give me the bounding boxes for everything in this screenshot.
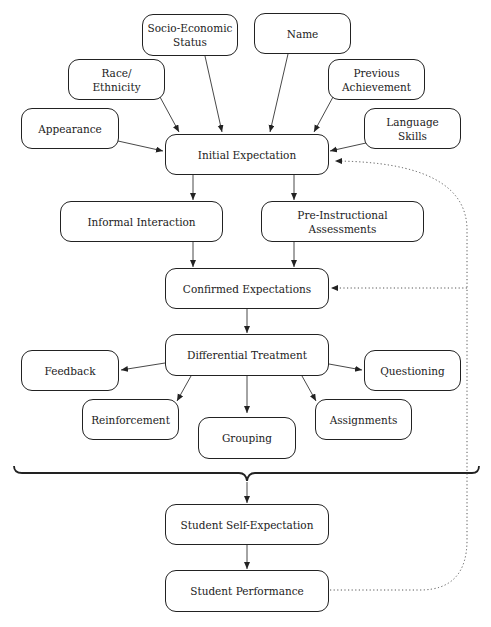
arrow-name-initial: [270, 54, 288, 132]
node-student-self-expectation: Student Self-Expectation: [165, 504, 329, 545]
node-confirmed-expectations: Confirmed Expectations: [165, 268, 329, 309]
arrow-socio-initial: [205, 56, 222, 132]
arrow-race-initial: [160, 97, 179, 132]
node-label: Pre-Instructional Assessments: [265, 208, 420, 236]
node-label: Language Skills: [386, 115, 439, 143]
node-informal-interaction: Informal Interaction: [60, 201, 223, 242]
node-label: Race/ Ethnicity: [92, 66, 140, 94]
node-label: Initial Expectation: [198, 148, 296, 162]
node-label: Name: [287, 27, 319, 41]
node-initial-expectation: Initial Expectation: [165, 134, 329, 175]
node-label: Reinforcement: [91, 413, 170, 427]
node-label: Student Self-Expectation: [181, 518, 314, 532]
arrow-previous-initial: [314, 97, 333, 132]
node-label: Questioning: [380, 364, 444, 378]
node-assignments: Assignments: [315, 399, 412, 440]
node-label: Assignments: [330, 413, 398, 427]
node-language-skills: Language Skills: [364, 108, 461, 149]
grouping-brace: [14, 466, 479, 481]
node-label: Appearance: [38, 122, 102, 136]
node-socio-economic-status: Socio-Economic Status: [142, 14, 238, 56]
node-reinforcement: Reinforcement: [82, 399, 179, 440]
node-label: Student Performance: [190, 584, 304, 598]
arrow-appearance-initial: [118, 141, 163, 151]
node-questioning: Questioning: [364, 350, 461, 391]
node-appearance: Appearance: [21, 108, 119, 149]
node-student-performance: Student Performance: [165, 570, 329, 612]
node-feedback: Feedback: [21, 350, 119, 391]
node-label: Feedback: [44, 364, 95, 378]
node-label: Grouping: [222, 431, 272, 445]
node-differential-treatment: Differential Treatment: [165, 334, 329, 376]
node-label: Socio-Economic Status: [148, 21, 233, 49]
node-race-ethnicity: Race/ Ethnicity: [68, 59, 165, 100]
node-label: Previous Achievement: [342, 66, 411, 94]
node-pre-instructional-assessments: Pre-Instructional Assessments: [261, 201, 424, 242]
node-label: Informal Interaction: [87, 215, 195, 229]
node-grouping: Grouping: [198, 417, 296, 459]
arrow-language-initial: [330, 143, 366, 151]
node-label: Confirmed Expectations: [183, 282, 311, 296]
node-label: Differential Treatment: [187, 348, 307, 362]
node-name: Name: [254, 13, 351, 54]
node-previous-achievement: Previous Achievement: [328, 59, 425, 100]
